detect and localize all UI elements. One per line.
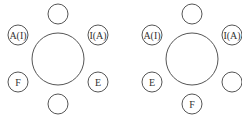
seat-label: E [95,77,101,88]
seating-diagrams: A(I)I(A)FEA(I)I(A)EF [0,0,242,119]
round-table [166,33,218,85]
seat-bottom [48,94,68,114]
round-table [32,33,84,85]
seat-label: F [189,99,195,110]
arrangement-2: A(I)I(A)EF [142,4,242,114]
seat-label: A(I) [9,30,26,42]
seat-top [48,4,68,24]
arrangement-1: A(I)I(A)FE [8,4,108,114]
seat-label: I(A) [89,30,106,42]
seat-label: E [149,77,155,88]
seat-top [182,4,202,24]
seat-label: F [15,77,21,88]
seat-label: A(I) [143,30,160,42]
seat-lower-right [222,72,242,92]
seat-label: I(A) [223,30,240,42]
